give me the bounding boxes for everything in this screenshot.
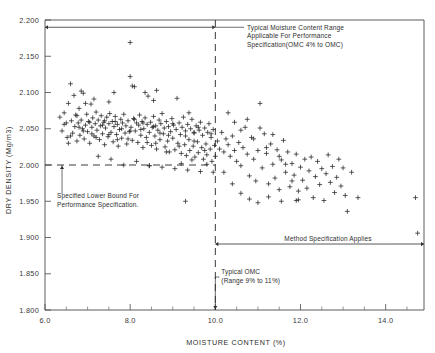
data-point	[330, 164, 335, 169]
data-point	[75, 113, 80, 118]
data-point	[112, 90, 117, 95]
data-point	[184, 153, 189, 158]
data-point	[264, 151, 269, 156]
data-point	[143, 90, 148, 95]
data-point	[132, 84, 137, 89]
y-axis-title: DRY DENSITY (Mg/m3)	[4, 126, 13, 214]
data-point	[317, 182, 322, 187]
data-point	[109, 130, 114, 135]
x-tick-label: 8.0	[125, 316, 136, 325]
data-point	[151, 124, 156, 129]
data-point	[166, 133, 171, 138]
data-point	[175, 141, 180, 146]
data-point	[185, 168, 190, 173]
data-point	[114, 132, 119, 137]
data-point	[232, 120, 237, 125]
data-point	[273, 176, 278, 181]
data-point	[160, 165, 165, 170]
data-point	[219, 130, 224, 135]
data-point	[79, 118, 84, 123]
data-point	[304, 186, 309, 191]
data-point	[315, 159, 320, 164]
data-point	[89, 102, 94, 107]
data-point	[154, 88, 159, 93]
data-point	[336, 157, 341, 162]
data-point	[87, 120, 92, 125]
data-point	[72, 124, 77, 129]
data-point	[109, 157, 114, 162]
data-point	[131, 116, 136, 121]
method-spec-label: Method Specification Applies	[284, 235, 372, 243]
data-point	[60, 129, 65, 134]
data-point	[356, 195, 361, 200]
data-point	[326, 152, 331, 157]
data-point	[177, 144, 182, 149]
data-point	[266, 181, 271, 186]
data-point	[230, 134, 235, 139]
data-point	[294, 152, 299, 157]
data-point	[141, 145, 146, 150]
data-point	[102, 142, 107, 147]
data-point	[97, 137, 102, 142]
data-point	[270, 132, 275, 137]
data-point	[147, 163, 152, 168]
data-point	[172, 166, 177, 171]
data-point	[128, 74, 133, 79]
data-point	[183, 129, 188, 134]
data-point	[146, 94, 151, 99]
data-point	[128, 40, 133, 45]
y-tick-label: 1.900	[19, 233, 39, 242]
data-point	[141, 126, 146, 131]
data-point	[136, 123, 141, 128]
data-point	[213, 154, 218, 159]
arrow-head	[213, 306, 217, 309]
data-point	[226, 142, 231, 147]
y-tick-label: 2.050	[19, 124, 39, 133]
data-point	[170, 116, 175, 121]
data-point	[332, 190, 337, 195]
data-point	[236, 140, 241, 145]
data-point	[149, 143, 154, 148]
data-point	[204, 162, 209, 167]
data-point	[179, 151, 184, 156]
data-point	[147, 130, 152, 135]
data-point	[172, 147, 177, 152]
data-point	[202, 148, 207, 153]
data-point	[106, 132, 111, 137]
data-point	[58, 115, 63, 120]
data-point	[302, 157, 307, 162]
perf-range-label-line: Specification(OMC 4% to OMC)	[247, 41, 343, 49]
data-point	[148, 120, 153, 125]
perf-range-label-line: Typical Moisture Content Range	[247, 24, 344, 32]
x-tick-label: 12.0	[293, 316, 308, 325]
data-point	[415, 231, 420, 236]
data-point	[106, 134, 111, 139]
data-point	[275, 147, 280, 152]
data-point	[334, 175, 339, 180]
data-point	[116, 144, 121, 149]
y-tick-label: 2.200	[19, 16, 39, 25]
data-point	[178, 132, 183, 137]
data-point	[279, 158, 284, 163]
data-point	[277, 187, 282, 192]
data-point	[81, 91, 86, 96]
data-point	[164, 119, 169, 124]
data-point	[281, 138, 286, 143]
data-point	[234, 159, 239, 164]
data-point	[294, 198, 299, 203]
annotations: Typical Moisture Content RangeApplicable…	[45, 24, 424, 310]
data-point	[199, 145, 204, 150]
data-point	[204, 142, 209, 147]
data-point	[81, 129, 86, 134]
perf-range-label-line: Applicable For Performance	[247, 32, 332, 40]
data-point	[180, 125, 185, 130]
x-axis-ticks	[45, 304, 407, 310]
data-point	[95, 128, 100, 133]
data-point	[163, 144, 168, 149]
data-point	[145, 122, 150, 127]
data-point	[106, 121, 111, 126]
data-point	[300, 178, 305, 183]
lower-bound-label-line: Performance Specification.	[57, 201, 139, 209]
data-point	[151, 114, 156, 119]
data-point	[137, 113, 142, 118]
